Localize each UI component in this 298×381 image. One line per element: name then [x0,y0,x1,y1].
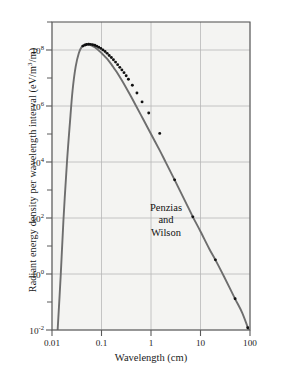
annotation-line: Wilson [150,227,182,239]
x-tick-label-1: 0.1 [96,338,107,348]
annotation-line: Penzias [150,202,182,214]
x-tick-label-4: 100 [243,338,257,348]
x-tick-label-3: 10 [196,338,205,348]
y-tick-label-0: 108 [8,44,44,56]
x-tick-label-0: 0.01 [44,338,60,348]
y-tick-label-2: 104 [8,156,44,168]
blackbody-spectrum-chart [0,0,298,381]
y-tick-label-3: 102 [8,212,44,224]
x-tick-label-2: 1 [149,338,154,348]
figure-page: Radiant energy density per wavelength in… [0,0,298,381]
y-tick-label-5: 10-2 [8,324,44,336]
penzias-wilson-label: PenziasandWilson [150,202,182,239]
x-axis-title: Wavelength (cm) [52,352,250,363]
y-tick-label-4: 100 [8,268,44,280]
annotation-line: and [150,215,182,227]
y-tick-label-1: 106 [8,100,44,112]
